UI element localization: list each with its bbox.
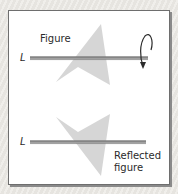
upper-axis-label: L (20, 53, 26, 63)
rotation-arrow-icon (140, 35, 152, 69)
reflection-diagram (0, 0, 178, 194)
figure-label: Figure (40, 33, 71, 44)
lower-axis-line (30, 141, 146, 144)
reflected-figure-shape (56, 114, 110, 176)
reflected-figure-label-line2: figure (114, 162, 143, 173)
reflected-figure-label-line1: Reflected (114, 150, 161, 161)
upper-axis-line (30, 57, 148, 60)
lower-axis-label: L (20, 137, 26, 147)
